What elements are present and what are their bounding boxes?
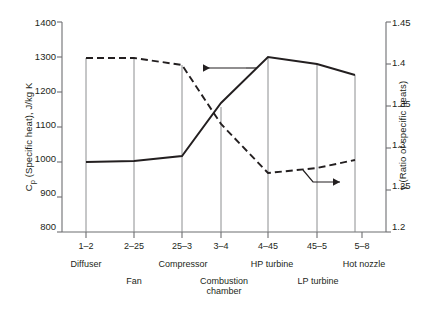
bottom-axis-spine — [62, 232, 386, 238]
right-axis-spine — [386, 22, 391, 232]
gamma-ratio-curve — [86, 58, 355, 173]
station-separators — [86, 57, 355, 232]
chart-figure: Cp (Specific heat), J/kg K γ (Ratio of s… — [0, 0, 436, 320]
cp-specific-heat-curve — [86, 57, 355, 162]
plot-canvas — [0, 0, 436, 320]
left-axis-spine — [57, 22, 62, 232]
arrow-to-right-axis — [303, 170, 340, 182]
